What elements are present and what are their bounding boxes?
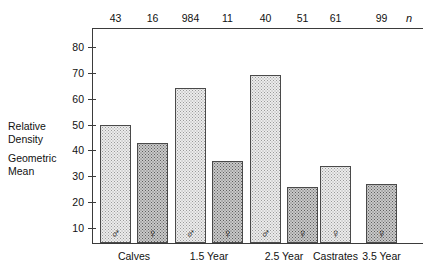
- male-symbol-icon: ♂: [101, 227, 130, 240]
- bar: ♂: [175, 88, 206, 243]
- bar-chart: 43 16 984 11 40 51 61 99 n 8070605040302…: [0, 0, 433, 278]
- x-axis-category-label: 1.5 Year: [169, 250, 249, 263]
- bar: ♀: [137, 143, 168, 243]
- x-axis-baseline: [92, 243, 423, 244]
- female-symbol-icon: ♀: [367, 227, 396, 240]
- male-symbol-icon: ♂: [251, 227, 280, 240]
- bar: ♀: [366, 184, 397, 243]
- female-symbol-icon: ♀: [213, 227, 242, 240]
- bar: ♂: [250, 75, 281, 243]
- x-axis-category-label: Calves: [94, 250, 174, 263]
- female-symbol-icon: ♀: [288, 227, 317, 240]
- bars-layer: ♂♀♂♀♂♀♀♀: [0, 0, 433, 243]
- bar: ♀: [287, 187, 318, 243]
- bar: ♀: [212, 161, 243, 243]
- bar: ♀: [320, 166, 351, 243]
- male-symbol-icon: ♂: [176, 227, 205, 240]
- bar: ♂: [100, 125, 131, 243]
- female-symbol-icon: ♀: [138, 227, 167, 240]
- female-symbol-icon: ♀: [321, 227, 350, 240]
- x-axis-category-label: 3.5 Year: [342, 250, 422, 263]
